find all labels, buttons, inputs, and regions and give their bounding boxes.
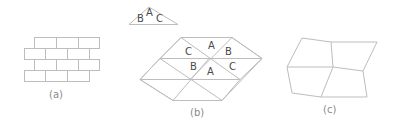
panel-c-caption: (c) (323, 104, 336, 115)
panel-c-quad-mesh: (c) (287, 38, 377, 115)
lattice-label-b-lower: B (190, 61, 197, 72)
tiling-diagram: (a) B A C C A B B A C (b) (0, 0, 396, 133)
panel-b-single-triangle: B A C (129, 7, 178, 25)
triangle-label-a: A (146, 7, 153, 18)
panel-b-triangle-lattice: C A B B A C (b) (140, 38, 262, 119)
lattice-label-c-lower: C (229, 61, 236, 72)
lattice-label-a-lower: A (207, 66, 214, 77)
lattice-label-c-upper: C (185, 46, 192, 57)
lattice-label-b-upper: B (225, 46, 232, 57)
lattice-label-a-upper: A (208, 40, 215, 51)
triangle-label-c: C (156, 13, 163, 24)
triangle-label-b: B (137, 13, 144, 24)
panel-a-caption: (a) (49, 89, 63, 100)
panel-a-brick-tiling: (a) (25, 38, 100, 101)
panel-b-caption: (b) (190, 107, 204, 118)
